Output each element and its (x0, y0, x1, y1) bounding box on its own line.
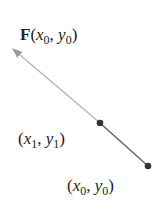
point1-label: (x1, y1) (18, 129, 65, 151)
vector-field-diagram: F(x0, y0) (x1, y1) (x0, y0) (0, 0, 168, 214)
displacement-segment (100, 123, 148, 166)
point-x0-y0 (145, 163, 152, 170)
point0-label: (x0, y0) (67, 176, 114, 198)
point-x1-y1 (97, 120, 104, 127)
vector-label: F(x0, y0) (20, 25, 77, 47)
force-vector-arrow (13, 49, 100, 123)
